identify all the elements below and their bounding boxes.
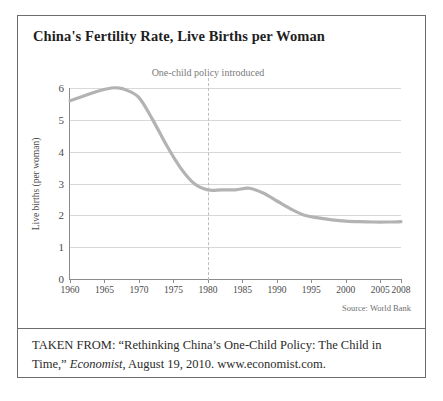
figure-container: China's Fertility Rate, Live Births per … bbox=[17, 15, 426, 378]
x-axis-tick-label: 2000 bbox=[336, 285, 355, 295]
x-axis-tick-mark bbox=[70, 279, 71, 283]
plot-wrapper: Live births (per woman) 0123456196019651… bbox=[18, 16, 427, 379]
x-axis-tick-mark bbox=[380, 279, 381, 283]
y-axis-tick-label: 4 bbox=[59, 146, 65, 157]
x-axis-tick-mark bbox=[139, 279, 140, 283]
caption-suffix: , August 19, 2010. www.economist.com. bbox=[123, 357, 326, 371]
x-axis-tick-label: 2005 bbox=[371, 285, 390, 295]
y-axis-tick-label: 1 bbox=[59, 242, 65, 253]
y-axis-title: Live births (per woman) bbox=[31, 138, 41, 231]
x-axis-tick-mark bbox=[401, 279, 402, 283]
y-axis-tick-label: 6 bbox=[59, 83, 65, 94]
x-axis-tick-mark bbox=[173, 279, 174, 283]
x-axis-tick-mark bbox=[242, 279, 243, 283]
x-axis-tick-mark bbox=[277, 279, 278, 283]
x-axis-tick-label: 1960 bbox=[61, 285, 80, 295]
caption-text: TAKEN FROM: “Rethinking China’s One-Chil… bbox=[32, 336, 413, 375]
y-axis-tick-label: 3 bbox=[59, 178, 65, 189]
x-axis-tick-label: 1985 bbox=[233, 285, 252, 295]
x-axis-tick-label: 1980 bbox=[198, 285, 217, 295]
series-layer bbox=[70, 88, 401, 279]
x-axis-tick-mark bbox=[346, 279, 347, 283]
x-axis-tick-label: 1995 bbox=[302, 285, 321, 295]
data-series-line bbox=[70, 88, 401, 222]
x-axis-tick-mark bbox=[311, 279, 312, 283]
x-axis-tick-label: 1975 bbox=[164, 285, 183, 295]
y-axis-tick-label: 2 bbox=[59, 210, 65, 221]
y-axis-tick-label: 0 bbox=[59, 274, 65, 285]
source-note: Source: World Bank bbox=[342, 303, 411, 313]
caption-divider bbox=[18, 328, 425, 329]
x-axis-tick-label: 1965 bbox=[95, 285, 114, 295]
y-axis-tick-label: 5 bbox=[59, 114, 65, 125]
x-axis-tick-mark bbox=[104, 279, 105, 283]
caption-publication: Economist bbox=[70, 357, 123, 371]
x-axis-tick-label: 2008 bbox=[392, 285, 411, 295]
x-axis-tick-label: 1990 bbox=[267, 285, 286, 295]
plot-area: 0123456196019651970197519801985199019952… bbox=[69, 88, 401, 280]
x-axis-tick-label: 1970 bbox=[129, 285, 148, 295]
